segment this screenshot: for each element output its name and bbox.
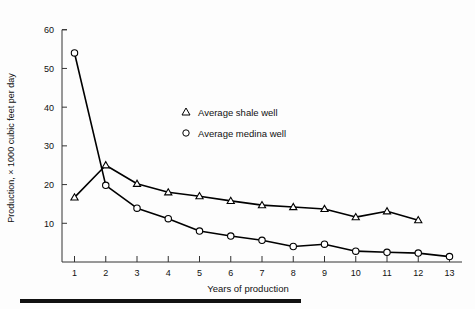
data-point-circle — [165, 215, 171, 221]
data-point-circle — [290, 243, 296, 249]
x-axis-ticks — [75, 256, 450, 262]
x-tick-label: 1 — [72, 268, 77, 278]
data-point-triangle — [383, 208, 390, 214]
footer-rule — [20, 299, 301, 303]
data-point-circle — [259, 237, 265, 243]
x-axis-tick-labels: 12345678910111213 — [72, 268, 455, 278]
y-axis-tick-labels: 102030405060 — [44, 25, 54, 229]
legend-label: Average shale well — [198, 107, 278, 118]
x-tick-label: 11 — [382, 268, 391, 278]
data-point-circle — [103, 182, 109, 188]
y-tick-label: 60 — [44, 25, 54, 35]
data-point-triangle — [133, 180, 140, 186]
x-axis-title: Years of production — [207, 283, 289, 294]
x-tick-label: 2 — [103, 268, 108, 278]
x-tick-label: 4 — [166, 268, 171, 278]
chart-svg: 102030405060 12345678910111213 Productio… — [0, 0, 475, 309]
data-point-triangle — [102, 162, 109, 168]
x-tick-label: 5 — [197, 268, 202, 278]
data-point-circle — [196, 228, 202, 234]
series-line-triangle — [75, 165, 419, 220]
chart-series — [71, 50, 453, 260]
data-point-circle — [415, 250, 421, 256]
x-tick-label: 8 — [291, 268, 296, 278]
legend-triangle-icon — [182, 108, 190, 115]
data-point-circle — [134, 205, 140, 211]
x-tick-label: 12 — [413, 268, 423, 278]
y-tick-label: 10 — [44, 219, 54, 229]
data-point-circle — [446, 253, 452, 259]
y-axis-ticks — [62, 30, 67, 224]
data-point-circle — [384, 249, 390, 255]
data-point-circle — [228, 233, 234, 239]
x-tick-label: 7 — [259, 268, 264, 278]
y-tick-label: 20 — [44, 180, 54, 190]
x-tick-label: 13 — [444, 268, 454, 278]
y-tick-label: 50 — [44, 64, 54, 74]
chart-axes — [62, 30, 462, 262]
chart-page: 102030405060 12345678910111213 Productio… — [0, 0, 475, 309]
chart-legend: Average shale wellAverage medina well — [182, 107, 286, 139]
legend-circle-icon — [183, 130, 189, 136]
series-line-circle — [75, 53, 450, 257]
chart-figure: 102030405060 12345678910111213 Productio… — [0, 0, 475, 309]
y-axis-title: Production, × 1000 cubic feet per day — [6, 73, 16, 223]
y-tick-label: 30 — [44, 141, 54, 151]
x-tick-label: 10 — [351, 268, 361, 278]
x-tick-label: 6 — [228, 268, 233, 278]
x-tick-label: 9 — [322, 268, 327, 278]
x-tick-label: 3 — [134, 268, 139, 278]
data-point-circle — [71, 50, 77, 56]
legend-label: Average medina well — [198, 128, 286, 139]
y-tick-label: 40 — [44, 103, 54, 113]
data-point-circle — [321, 241, 327, 247]
data-point-circle — [353, 248, 359, 254]
